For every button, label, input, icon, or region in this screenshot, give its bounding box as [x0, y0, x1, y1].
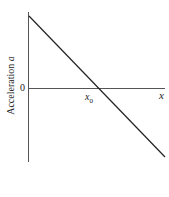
y-axis-label: Acceleration a	[5, 54, 16, 118]
x0-tick-label: x0	[85, 91, 93, 105]
y-axis-label-text: Acceleration	[5, 64, 16, 115]
x-axis-label: x	[159, 89, 164, 101]
acceleration-line	[29, 16, 165, 157]
y-axis-label-variable: a	[5, 56, 16, 61]
acceleration-vs-position-plot: Acceleration a 0 x0 x	[0, 0, 169, 197]
x0-subscript: 0	[89, 97, 93, 105]
y-tick-zero: 0	[20, 82, 25, 93]
